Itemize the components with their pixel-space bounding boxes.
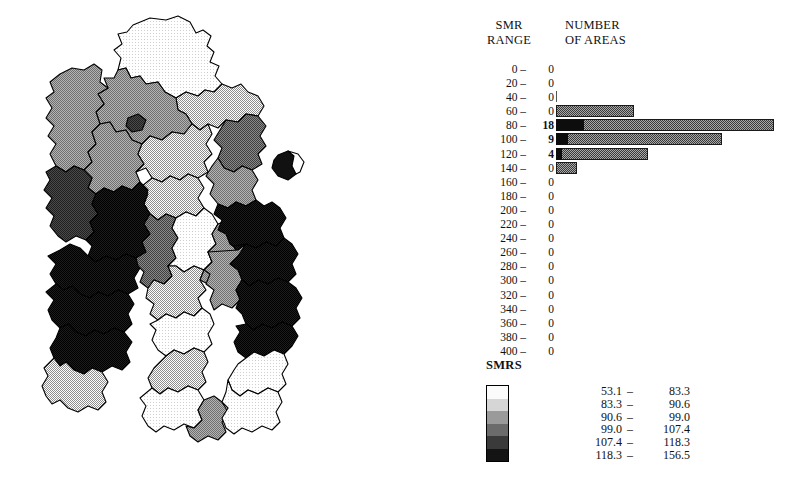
legend-row: 118.3–156.5: [530, 449, 690, 462]
histogram-baseline-tick: [556, 91, 557, 102]
histogram-bar-area: [556, 63, 787, 75]
histogram-bar-area: [556, 77, 787, 89]
histogram-row-count: 0: [532, 245, 554, 259]
legend-swatch: [487, 411, 508, 424]
histogram-row-range: 80 –: [470, 118, 526, 132]
histogram-bar-area: [556, 218, 787, 230]
histogram-row-count: 0: [532, 217, 554, 231]
histogram-row: 40 –0: [470, 90, 787, 104]
map-region: [228, 350, 288, 396]
histogram-row-count: 0: [532, 62, 554, 76]
histogram-row-range: 340 –: [470, 302, 526, 316]
histogram-row-range: 120 –: [470, 147, 526, 161]
histogram-row: 360 –0: [470, 316, 787, 330]
histogram-bar-cap: [556, 148, 562, 160]
histogram-row: 20 –0: [470, 76, 787, 90]
histogram-row: 200 –0: [470, 203, 787, 217]
histogram-row-count: 0: [532, 288, 554, 302]
legend-swatch-column: [486, 385, 509, 462]
histogram-row: 100 –9: [470, 132, 787, 146]
histogram-bar: [556, 119, 774, 131]
histogram-row-range: 160 –: [470, 175, 526, 189]
histogram-row: 140 –0: [470, 161, 787, 175]
legend-label-column: 53.1–83.383.3–90.690.6–99.099.0–107.4107…: [530, 385, 766, 462]
map-region: [44, 166, 98, 242]
histogram-row: 160 –0: [470, 175, 787, 189]
histogram-bar-area: [556, 91, 787, 103]
histogram-row-range: 0 –: [470, 62, 526, 76]
legend-swatch: [487, 399, 508, 412]
header-smr-line1: SMR: [470, 18, 548, 33]
histogram-row-count: 0: [532, 104, 554, 118]
header-num-line1: NUMBER: [565, 18, 626, 33]
histogram-bar-area: [556, 148, 787, 160]
histogram-row-range: 260 –: [470, 245, 526, 259]
histogram-header: SMR RANGE NUMBER OF AREAS: [470, 18, 787, 58]
histogram-bar-fill: [556, 119, 774, 131]
histogram-bar: [556, 105, 634, 117]
histogram-bar-area: [556, 260, 787, 272]
histogram-row-count: 0: [532, 203, 554, 217]
histogram-row: 340 –0: [470, 302, 787, 316]
histogram-row-range: 60 –: [470, 104, 526, 118]
histogram-bar-area: [556, 119, 787, 131]
map-region: [142, 174, 204, 220]
histogram-row-count: 0: [532, 231, 554, 245]
histogram-row: 280 –0: [470, 259, 787, 273]
histogram-bar-area: [556, 190, 787, 202]
histogram-row-count: 0: [532, 316, 554, 330]
legend-title: SMRS: [486, 358, 766, 373]
histogram-row-range: 380 –: [470, 330, 526, 344]
legend-swatch: [487, 424, 508, 437]
legend-range-high: 83.3: [638, 385, 690, 398]
histogram-bar-cap: [556, 119, 584, 131]
histogram-row-count: 0: [532, 259, 554, 273]
histogram-row: 380 –0: [470, 330, 787, 344]
histogram-row: 400 –0: [470, 344, 787, 358]
histogram-row: 300 –0: [470, 273, 787, 287]
legend-panel: SMRS 53.1–83.383.3–90.690.6–99.099.0–107…: [486, 358, 766, 462]
map-inset: [272, 151, 304, 180]
histogram-row-range: 100 –: [470, 132, 526, 146]
legend-swatch: [487, 436, 508, 449]
histogram-bar-area: [556, 232, 787, 244]
histogram-bar: [556, 133, 722, 145]
histogram-row-count: 4: [532, 147, 554, 161]
histogram-bar-area: [556, 162, 787, 174]
histogram-row-range: 40 –: [470, 90, 526, 104]
choropleth-map: [0, 0, 465, 498]
histogram-row-count: 0: [532, 161, 554, 175]
map-region: [86, 182, 150, 262]
histogram-bar-area: [556, 204, 787, 216]
histogram-bar-area: [556, 317, 787, 329]
histogram-row-count: 0: [532, 90, 554, 104]
histogram-row-count: 9: [532, 132, 554, 146]
histogram-row-range: 180 –: [470, 189, 526, 203]
histogram-row: 220 –0: [470, 217, 787, 231]
histogram-row-range: 300 –: [470, 273, 526, 287]
histogram-row-range: 280 –: [470, 259, 526, 273]
map-region: [148, 348, 208, 394]
histogram-row: 80 –18: [470, 118, 787, 132]
histogram-row: 0 –0: [470, 62, 787, 76]
legend-range-high: 156.5: [638, 449, 690, 462]
histogram-row-range: 240 –: [470, 231, 526, 245]
histogram-bar-area: [556, 345, 787, 357]
legend-swatch: [487, 386, 508, 399]
map-regions: [42, 16, 302, 442]
histogram-bar-area: [556, 133, 787, 145]
histogram-bar-area: [556, 289, 787, 301]
map-region: [234, 322, 298, 358]
header-number-of-areas: NUMBER OF AREAS: [565, 18, 626, 48]
histogram-row-count: 0: [532, 344, 554, 358]
histogram-bar-area: [556, 105, 787, 117]
histogram-bar: [556, 148, 648, 160]
histogram-bar-area: [556, 246, 787, 258]
legend-range-high: 90.6: [638, 398, 690, 411]
histogram-bar-fill: [556, 162, 577, 174]
histogram-row-count: 0: [532, 302, 554, 316]
histogram-row-count: 0: [532, 76, 554, 90]
map-svg: [0, 0, 465, 498]
legend-row: 83.3–90.6: [530, 398, 690, 411]
histogram-row-count: 0: [532, 189, 554, 203]
